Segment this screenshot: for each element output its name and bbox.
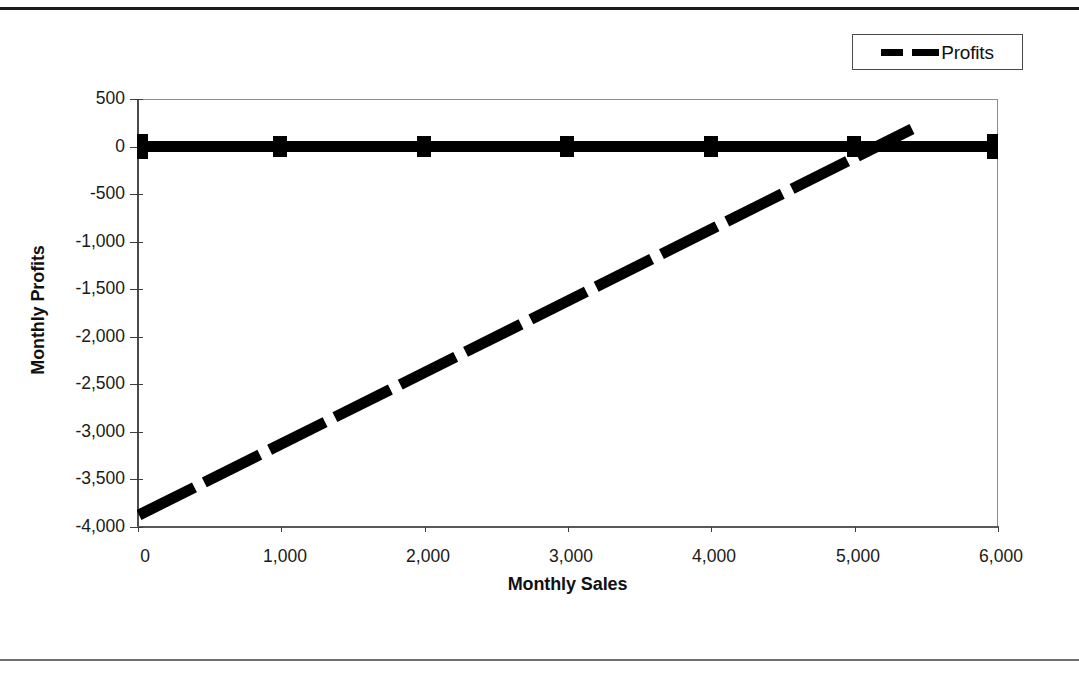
page-rule-bottom bbox=[0, 659, 1079, 661]
x-tick-label: 5,000 bbox=[836, 548, 880, 566]
legend-item-profits[interactable]: Profits bbox=[881, 43, 993, 62]
y-tick-label: 0 bbox=[115, 138, 125, 156]
x-axis-title: Monthly Sales bbox=[137, 574, 998, 594]
y-tick-label: -4,000 bbox=[75, 518, 125, 536]
x-tick-label: 1,000 bbox=[263, 548, 307, 566]
x-tick-label: 0 bbox=[140, 548, 150, 566]
legend-label-profits: Profits bbox=[941, 43, 993, 62]
y-tick-label: 500 bbox=[96, 90, 125, 108]
y-tick-label: -500 bbox=[90, 185, 125, 203]
y-tick-label: -1,000 bbox=[75, 233, 125, 251]
y-tick-label: -3,000 bbox=[75, 423, 125, 441]
page-rule-top bbox=[0, 7, 1079, 10]
chart-page: Profits 500 0 -500 -1,000 -1,500 -2,000 … bbox=[0, 0, 1079, 680]
x-tick-label: 2,000 bbox=[406, 548, 450, 566]
y-tick-label: -2,000 bbox=[75, 328, 125, 346]
x-tick-label: 6,000 bbox=[979, 548, 1023, 566]
x-tick-label: 3,000 bbox=[549, 548, 593, 566]
chart-legend[interactable]: Profits bbox=[852, 34, 1023, 70]
chart-plot-lines bbox=[137, 99, 998, 527]
y-tick-label: -2,500 bbox=[75, 375, 125, 393]
y-tick-label: -1,500 bbox=[75, 280, 125, 298]
legend-dashed-line-icon bbox=[881, 48, 939, 56]
x-tick-label: 4,000 bbox=[692, 548, 736, 566]
y-axis-title: Monthly Profits bbox=[28, 210, 48, 410]
y-tick-label: -3,500 bbox=[75, 470, 125, 488]
series-profits bbox=[139, 129, 912, 515]
